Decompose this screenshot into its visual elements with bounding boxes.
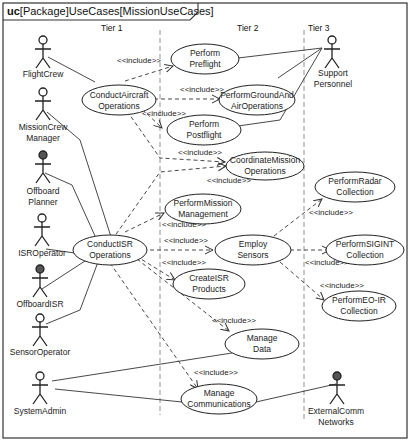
svg-text:Manager: Manager xyxy=(26,133,60,143)
svg-text:PerformGroundAnd: PerformGroundAnd xyxy=(220,90,294,100)
svg-text:Manage: Manage xyxy=(247,333,278,343)
svg-text:Planner: Planner xyxy=(28,197,57,207)
svg-text:CreateISR: CreateISR xyxy=(189,273,229,283)
svg-text:Manage: Manage xyxy=(204,388,235,398)
svg-text:<<include>>: <<include>> xyxy=(212,316,256,325)
svg-text:SensorOperator: SensorOperator xyxy=(10,347,71,357)
use-case-missionmgmt[interactable]: PerformMission Management xyxy=(165,194,241,224)
use-case-conductisr[interactable]: ConductISR Operations xyxy=(73,235,147,265)
svg-text:PerformRadar: PerformRadar xyxy=(328,176,382,186)
use-case-eoir[interactable]: PerformEO-IR Collection xyxy=(322,291,396,321)
svg-text:PerformMission: PerformMission xyxy=(173,198,232,208)
svg-text:ConductISR: ConductISR xyxy=(87,239,133,249)
tier-2-label: Tier 2 xyxy=(237,23,259,33)
svg-text:Collection: Collection xyxy=(346,250,384,260)
svg-text:Operations: Operations xyxy=(98,101,140,111)
svg-text:Collection: Collection xyxy=(340,306,378,316)
svg-text:FlightCrew: FlightCrew xyxy=(23,69,64,79)
svg-text:Sensors: Sensors xyxy=(237,250,268,260)
use-case-managecomms[interactable]: Manage Communications xyxy=(181,384,257,414)
svg-text:Products: Products xyxy=(192,284,226,294)
svg-text:Data: Data xyxy=(253,344,271,354)
svg-text:Management: Management xyxy=(178,209,228,219)
use-case-createisr[interactable]: CreateISR Products xyxy=(173,269,245,299)
use-case-employsensors[interactable]: Employ Sensors xyxy=(215,235,291,265)
use-case-postflight[interactable]: Perform Postflight xyxy=(167,115,241,145)
svg-text:CoordinateMission: CoordinateMission xyxy=(230,155,301,165)
svg-text:Operations: Operations xyxy=(244,166,286,176)
svg-text:SystemAdmin: SystemAdmin xyxy=(14,406,67,416)
svg-text:Employ: Employ xyxy=(239,239,268,249)
svg-text:Preflight: Preflight xyxy=(189,59,221,69)
use-case-coordinate[interactable]: CoordinateMission Operations xyxy=(226,152,304,180)
svg-text:Postflight: Postflight xyxy=(187,130,223,140)
use-case-groundair[interactable]: PerformGroundAnd AirOperations xyxy=(219,85,295,115)
svg-text:OffboardISR: OffboardISR xyxy=(16,299,63,309)
svg-text:<<include>>: <<include>> xyxy=(320,281,364,290)
svg-text:<<include>>: <<include>> xyxy=(162,258,206,267)
svg-text:<<include>>: <<include>> xyxy=(117,56,161,65)
svg-text:<<include>>: <<include>> xyxy=(309,208,353,217)
svg-text:Perform: Perform xyxy=(189,119,219,129)
svg-text:Collection: Collection xyxy=(336,187,374,197)
svg-text:ExternalComm: ExternalComm xyxy=(308,406,364,416)
use-case-sigint[interactable]: PerformSIGINT Collection xyxy=(326,235,404,265)
svg-text:Operations: Operations xyxy=(89,250,131,260)
svg-text:<<include>>: <<include>> xyxy=(178,148,222,157)
use-case-managedata[interactable]: Manage Data xyxy=(225,329,299,359)
use-case-radar[interactable]: PerformRadar Collection xyxy=(315,172,395,202)
svg-text:<<include>>: <<include>> xyxy=(142,109,186,118)
svg-text:Offboard: Offboard xyxy=(27,186,60,196)
tier-3-label: Tier 3 xyxy=(308,23,330,33)
svg-text:PerformEO-IR: PerformEO-IR xyxy=(332,295,386,305)
frame-title: uc[Package]UseCases[MissionUseCases] xyxy=(7,5,214,17)
svg-text:AirOperations: AirOperations xyxy=(231,101,283,111)
svg-text:<<include>>: <<include>> xyxy=(194,368,238,377)
use-case-conductaircraft[interactable]: ConductAircraft Operations xyxy=(82,85,156,115)
svg-text:ISROperator: ISROperator xyxy=(18,248,66,258)
svg-text:Networks: Networks xyxy=(318,417,353,427)
svg-text:<<include>>: <<include>> xyxy=(180,85,224,94)
svg-text:Support: Support xyxy=(318,68,348,78)
svg-text:<<include>>: <<include>> xyxy=(164,236,208,245)
svg-text:MissionCrew: MissionCrew xyxy=(19,122,69,132)
tier-1-label: Tier 1 xyxy=(101,23,123,33)
svg-text:ConductAircraft: ConductAircraft xyxy=(90,90,149,100)
use-case-preflight[interactable]: Perform Preflight xyxy=(171,44,239,74)
svg-text:Personnel: Personnel xyxy=(314,79,352,89)
use-case-diagram: uc[Package]UseCases[MissionUseCases] Tie… xyxy=(0,0,410,443)
svg-text:PerformSIGINT: PerformSIGINT xyxy=(336,239,395,249)
svg-text:Perform: Perform xyxy=(190,48,220,58)
svg-text:Communications: Communications xyxy=(187,399,250,409)
